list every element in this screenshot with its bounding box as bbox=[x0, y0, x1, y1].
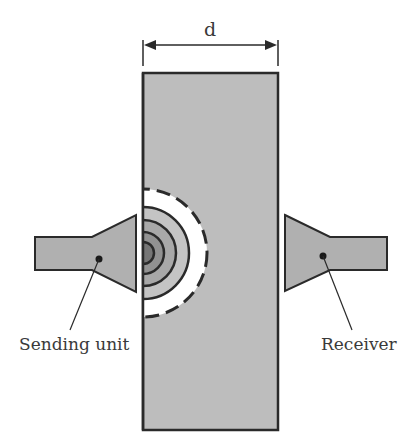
dimension-label-d: d bbox=[204, 20, 216, 39]
sending-unit-label: Sending unit bbox=[19, 336, 129, 353]
arrow-left-icon bbox=[144, 40, 156, 50]
receiver-label: Receiver bbox=[321, 336, 397, 353]
receiver-unit bbox=[285, 215, 387, 330]
sending-unit bbox=[35, 215, 136, 330]
dimension-d bbox=[143, 40, 278, 66]
diagram-canvas bbox=[0, 0, 414, 448]
arrow-right-icon bbox=[265, 40, 277, 50]
